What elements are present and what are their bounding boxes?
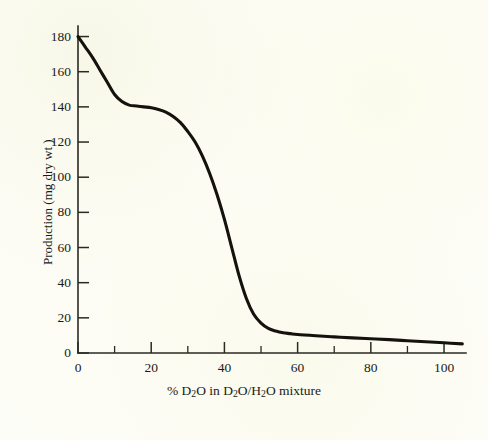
x-axis-title-prefix: % D: [167, 383, 191, 398]
x-axis-title-suffix: O mixture: [266, 383, 321, 398]
y-tick-label-180: 180: [51, 30, 71, 44]
x-axis-title: % D2O in D2O/H2O mixture: [167, 383, 321, 399]
y-tick-label-20: 20: [58, 311, 72, 325]
x-tick-label-60: 60: [291, 361, 305, 375]
chart-figure: 020406080100120140160180 020406080100 Pr…: [0, 0, 488, 440]
x-axis-title-mid-2: O/H: [238, 383, 261, 398]
y-tick-label-60: 60: [58, 241, 72, 255]
plot-canvas: [0, 0, 488, 440]
y-axis-ticks: [78, 37, 89, 353]
y-tick-label-80: 80: [58, 205, 72, 219]
x-axis-title-mid-1: O in D: [196, 383, 233, 398]
production-curve: [78, 37, 462, 344]
x-tick-label-40: 40: [218, 361, 232, 375]
x-tick-label-0: 0: [75, 361, 82, 375]
y-tick-label-160: 160: [51, 65, 71, 79]
y-tick-label-0: 0: [64, 346, 71, 360]
y-tick-label-40: 40: [58, 276, 72, 290]
x-tick-label-20: 20: [144, 361, 158, 375]
x-tick-label-80: 80: [364, 361, 378, 375]
x-axis-ticks: [78, 342, 444, 353]
x-tick-label-100: 100: [434, 361, 454, 375]
y-axis-title: Production (mg dry wt ): [40, 139, 56, 265]
y-tick-label-140: 140: [51, 100, 71, 114]
axes-group: [78, 26, 466, 353]
